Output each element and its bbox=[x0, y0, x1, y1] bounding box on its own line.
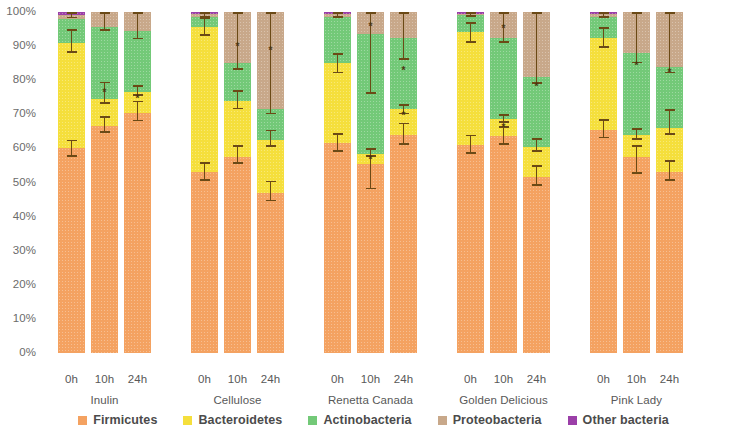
bar-segment-bacteroidetes bbox=[457, 32, 484, 145]
bar-segment-firmicutes bbox=[357, 164, 384, 353]
bar[interactable]: * bbox=[224, 12, 251, 353]
x-axis-time-label: 10h bbox=[224, 373, 251, 385]
bar[interactable] bbox=[191, 12, 218, 353]
significance-marker: * bbox=[402, 68, 406, 74]
bar[interactable] bbox=[590, 12, 617, 353]
x-axis-time-label: 24h bbox=[390, 373, 417, 385]
bar[interactable]: * bbox=[257, 12, 284, 353]
y-axis-tick: 20% bbox=[13, 279, 36, 291]
y-axis-tick: 100% bbox=[6, 6, 36, 18]
stacked-bar-chart: 100%90%80%70%60%50%40%30%20%10%0% 0h10h2… bbox=[0, 0, 747, 432]
bar[interactable]: * bbox=[523, 12, 550, 353]
significance-marker: * bbox=[502, 125, 506, 131]
x-axis-time-label: 0h bbox=[590, 373, 617, 385]
error-bar bbox=[403, 123, 405, 145]
y-axis-tick: 40% bbox=[13, 211, 36, 223]
legend-swatch-icon bbox=[308, 416, 317, 425]
bar[interactable]: * bbox=[623, 12, 650, 353]
legend-item-bacteroidetes[interactable]: Bacteroidetes bbox=[183, 413, 282, 427]
y-axis-tick: 60% bbox=[13, 143, 36, 155]
significance-marker: * bbox=[103, 90, 107, 96]
y-axis-tick: 50% bbox=[13, 177, 36, 189]
error-bar bbox=[71, 12, 73, 18]
error-bar bbox=[603, 12, 605, 18]
significance-marker: * bbox=[668, 70, 672, 76]
bar[interactable] bbox=[324, 12, 351, 353]
bar-segment-firmicutes bbox=[457, 145, 484, 353]
error-bar bbox=[470, 135, 472, 154]
significance-marker: * bbox=[269, 48, 273, 54]
bar-segment-actinobacteria bbox=[490, 38, 517, 120]
bar-segment-firmicutes bbox=[224, 157, 251, 353]
bar-segment-firmicutes bbox=[656, 172, 683, 353]
bar-segment-firmicutes bbox=[191, 172, 218, 353]
bar[interactable]: * bbox=[124, 12, 151, 353]
bar[interactable] bbox=[457, 12, 484, 353]
error-bar bbox=[204, 12, 206, 18]
error-bar bbox=[403, 12, 405, 60]
significance-marker: * bbox=[502, 26, 506, 32]
legend-label: Proteobacteria bbox=[453, 413, 542, 427]
legend-item-actinobacteria[interactable]: Actinobacteria bbox=[308, 413, 411, 427]
legend-swatch-icon bbox=[438, 416, 447, 425]
error-bar bbox=[536, 165, 538, 185]
error-bar bbox=[270, 12, 272, 114]
error-bar bbox=[669, 109, 671, 135]
error-bar bbox=[204, 17, 206, 36]
x-axis-time-label: 10h bbox=[623, 373, 650, 385]
bar[interactable]: ** bbox=[390, 12, 417, 353]
y-axis-tick: 30% bbox=[13, 245, 36, 257]
legend-label: Firmicutes bbox=[93, 413, 157, 427]
chart-legend: FirmicutesBacteroidetesActinobacteriaPro… bbox=[0, 408, 747, 432]
significance-marker: * bbox=[535, 84, 539, 90]
error-bar bbox=[337, 12, 339, 18]
legend-swatch-icon bbox=[568, 416, 577, 425]
legend-item-proteobacteria[interactable]: Proteobacteria bbox=[438, 413, 542, 427]
x-axis-group-label: Inulin bbox=[58, 394, 151, 406]
x-axis-time-label: 0h bbox=[324, 373, 351, 385]
error-bar bbox=[470, 22, 472, 42]
x-axis-time-label: 24h bbox=[656, 373, 683, 385]
bar-segment-firmicutes bbox=[257, 193, 284, 353]
error-bar bbox=[603, 27, 605, 47]
error-bar bbox=[270, 181, 272, 201]
error-bar bbox=[237, 145, 239, 164]
bar-segment-firmicutes bbox=[58, 148, 85, 353]
plot-area: 0h10h24h**Inulin0h10h24h**Cellulose0h10h… bbox=[42, 12, 747, 353]
bar-segment-bacteroidetes bbox=[324, 63, 351, 143]
significance-marker: * bbox=[369, 157, 373, 163]
significance-marker: * bbox=[635, 63, 639, 69]
bar[interactable] bbox=[58, 12, 85, 353]
bar-segment-bacteroidetes bbox=[590, 38, 617, 130]
error-bar bbox=[603, 119, 605, 138]
x-axis-group-label: Cellulose bbox=[191, 394, 284, 406]
bar[interactable]: ** bbox=[357, 12, 384, 353]
error-bar bbox=[636, 145, 638, 174]
legend-item-firmicutes[interactable]: Firmicutes bbox=[78, 413, 157, 427]
error-bar bbox=[137, 12, 139, 39]
bar[interactable]: ** bbox=[490, 12, 517, 353]
error-bar bbox=[536, 12, 538, 84]
x-axis-time-label: 10h bbox=[91, 373, 118, 385]
bar-group-renetta-canada: **** bbox=[324, 12, 417, 353]
error-bar bbox=[337, 133, 339, 152]
y-axis-tick: 10% bbox=[13, 313, 36, 325]
error-bar bbox=[636, 128, 638, 140]
bar-segment-firmicutes bbox=[490, 136, 517, 353]
error-bar bbox=[137, 101, 139, 121]
error-bar bbox=[636, 12, 638, 63]
bar-segment-firmicutes bbox=[390, 135, 417, 353]
legend-item-other-bacteria[interactable]: Other bacteria bbox=[568, 413, 669, 427]
x-axis-time-label: 10h bbox=[357, 373, 384, 385]
error-bar bbox=[669, 160, 671, 180]
significance-marker: * bbox=[236, 44, 240, 50]
bar[interactable]: * bbox=[91, 12, 118, 353]
x-axis-group-label: Golden Delicious bbox=[457, 394, 550, 406]
bar[interactable]: * bbox=[656, 12, 683, 353]
x-axis-group-label: Pink Lady bbox=[590, 394, 683, 406]
error-bar bbox=[270, 130, 272, 147]
bar-segment-bacteroidetes bbox=[191, 27, 218, 172]
bar-group-golden-delicious: *** bbox=[457, 12, 550, 353]
bar-group-pink-lady: ** bbox=[590, 12, 683, 353]
y-axis-tick: 90% bbox=[13, 40, 36, 52]
